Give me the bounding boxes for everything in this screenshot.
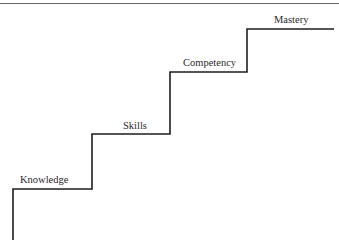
staircase-line	[0, 0, 339, 249]
step-label-mastery: Mastery	[274, 14, 308, 25]
step-label-skills: Skills	[123, 120, 147, 131]
step-label-knowledge: Knowledge	[20, 174, 68, 185]
step-label-competency: Competency	[183, 57, 236, 68]
